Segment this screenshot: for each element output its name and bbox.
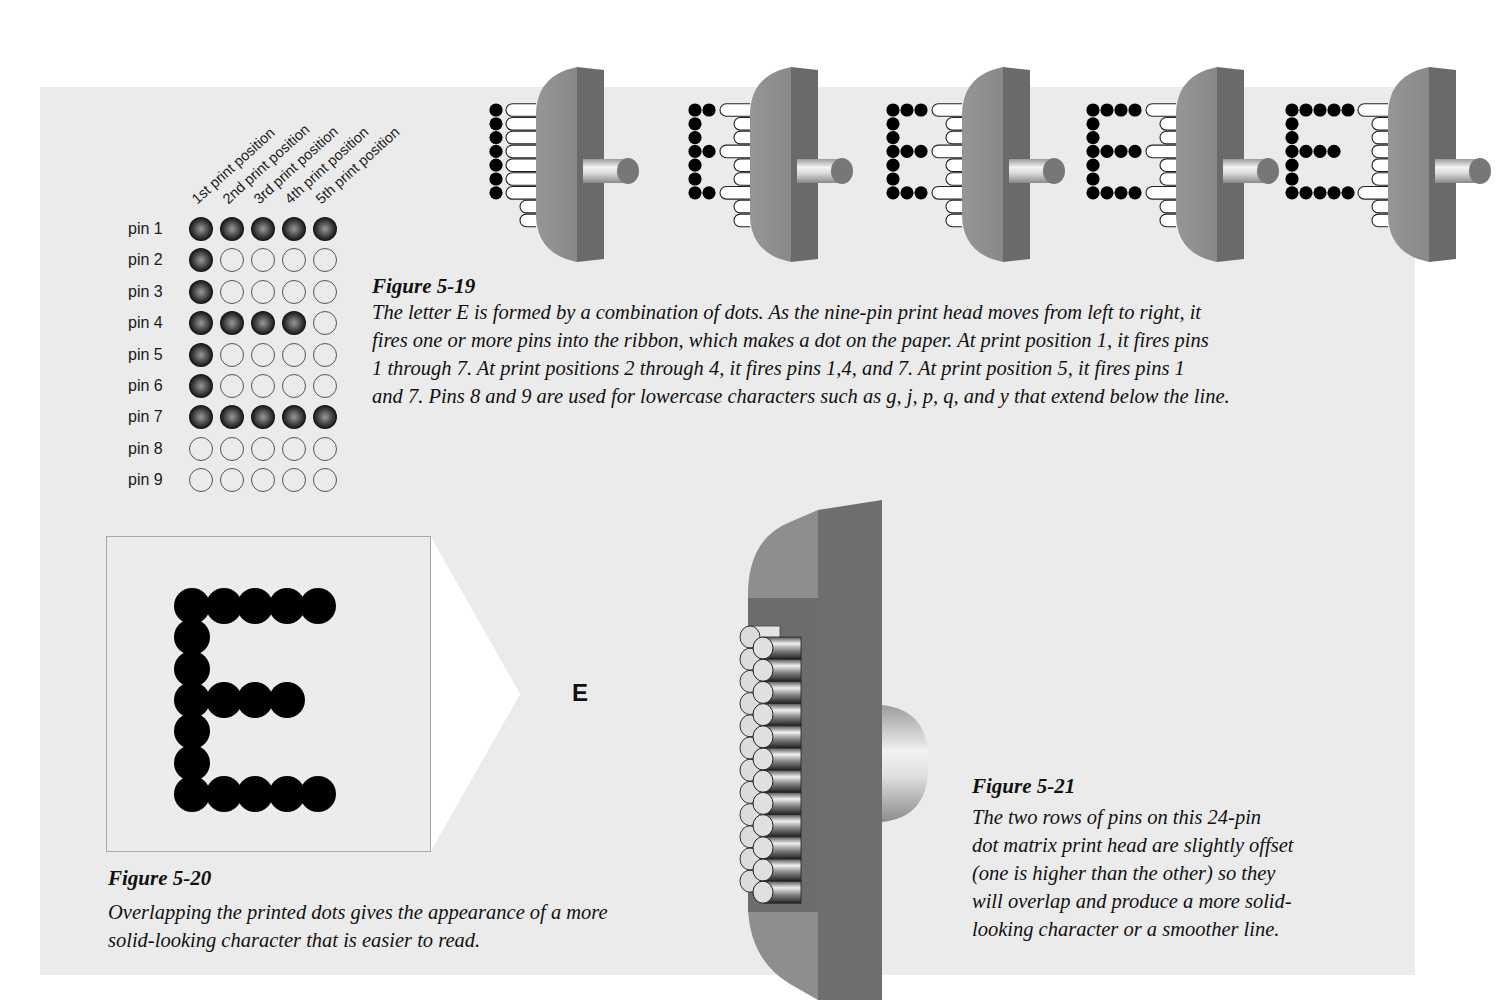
caption-line: dot matrix print head are slightly offse… (972, 831, 1392, 859)
caption-line: The two rows of pins on this 24-pin (972, 803, 1392, 831)
caption-line: (one is higher than the other) so they (972, 859, 1392, 887)
overlapping-dot (300, 776, 336, 812)
overlapping-dot (300, 588, 336, 624)
figure-5-20-caption: Overlapping the printed dots gives the a… (108, 898, 748, 954)
overlapping-dot (237, 776, 273, 812)
overlapping-dot (174, 776, 210, 812)
caption-line: solid-looking character that is easier t… (108, 926, 748, 954)
overlapping-dot (237, 682, 273, 718)
overlapping-dot (174, 713, 210, 749)
caption-line: will overlap and produce a more solid- (972, 887, 1392, 915)
24-pin-print-head (700, 490, 960, 1000)
overlapping-dot (269, 682, 305, 718)
overlapping-dot (237, 588, 273, 624)
figure-5-21-title: Figure 5-21 (972, 774, 1075, 799)
figure-5-20-title: Figure 5-20 (108, 866, 211, 891)
overlapping-dots-e-box (106, 536, 431, 852)
overlapping-dot (174, 619, 210, 655)
caption-line: Overlapping the printed dots gives the a… (108, 898, 748, 926)
caption-line: looking character or a smoother line. (972, 915, 1392, 943)
actual-size-letter-e: E (572, 679, 588, 707)
figure-5-21-caption: The two rows of pins on this 24-pin dot … (972, 803, 1392, 943)
